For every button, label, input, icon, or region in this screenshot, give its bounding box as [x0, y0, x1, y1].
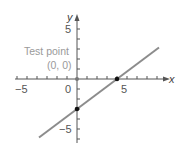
y-axis-label: y [66, 11, 74, 23]
annotation-test-point: Test point [24, 45, 69, 57]
tick-label-y-neg5: −5 [59, 123, 72, 135]
graph-canvas: y x 5 −5 −5 0 5 Test point (0, 0) [0, 0, 193, 149]
tick-label-x-0: 0 [65, 83, 71, 95]
y-axis-arrow-icon [75, 14, 80, 21]
tick-label-y-5: 5 [65, 23, 71, 35]
tick-label-x-neg5: −5 [15, 83, 28, 95]
y-intercept-point [75, 107, 80, 112]
tick-label-x-5: 5 [121, 83, 127, 95]
x-axis-label: x [168, 73, 175, 85]
annotation-test-point-coords: (0, 0) [47, 59, 72, 71]
test-point-origin [75, 77, 79, 81]
x-intercept-point [115, 77, 120, 82]
